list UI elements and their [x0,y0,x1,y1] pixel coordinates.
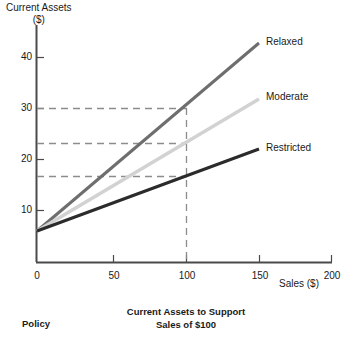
y-tick-label-20: 20 [8,153,32,164]
series-label-restricted: Restricted [266,142,311,153]
x-tick-label-50: 50 [99,270,129,281]
series-line-relaxed [37,43,259,231]
y-tick-label-10: 10 [8,204,32,215]
figure-caption-line2: Sales of $100 [156,319,216,330]
series-label-moderate: Moderate [266,91,308,102]
series-label-relaxed: Relaxed [266,36,303,47]
y-tick-label-40: 40 [8,51,32,62]
x-tick-label-100: 100 [172,270,202,281]
figure-caption-line1: Current Assets to Support [127,306,245,317]
policy-column-label: Policy [22,318,50,329]
x-tick-label-150: 150 [245,270,275,281]
x-tick-label-200: 200 [317,270,344,281]
series-line-restricted [37,149,259,231]
x-axis-title: Sales ($) [279,278,319,289]
y-tick-label-30: 30 [8,102,32,113]
series-line-moderate [37,99,259,231]
chart-plot-area [0,0,344,340]
x-tick-label-0: 0 [22,270,52,281]
chart-figure: Current Assets($) 40 30 20 10 0 50 100 1… [0,0,344,340]
figure-caption: Current Assets to SupportSales of $100 [96,305,276,331]
